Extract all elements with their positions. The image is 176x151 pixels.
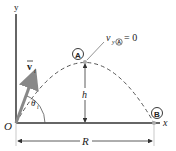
annotation-leader: [87, 42, 104, 60]
svg-text:i: i: [34, 68, 36, 74]
angle-label: θ i: [31, 98, 39, 110]
origin-label: O: [4, 120, 12, 132]
svg-text:B: B: [154, 110, 160, 119]
x-axis-label: x: [162, 117, 168, 128]
svg-text:= 0: = 0: [124, 32, 137, 43]
svg-text:y: y: [111, 39, 115, 45]
y-axis-label: y: [14, 2, 19, 12]
range-label: R: [81, 135, 89, 147]
projectile-diagram: y x O v i θ i A v y A = 0 h B: [0, 0, 176, 151]
svg-text:A: A: [75, 51, 81, 60]
svg-text:A: A: [117, 39, 121, 45]
svg-text:θ: θ: [31, 98, 36, 108]
point-a-marker: A: [73, 49, 84, 60]
point-b-marker: B: [152, 108, 163, 119]
angle-arc: [27, 96, 45, 123]
velocity-label: v i: [27, 61, 36, 74]
peak-point: [83, 60, 87, 64]
svg-text:v: v: [27, 61, 32, 72]
annotation-vy-zero: v y A = 0: [106, 32, 137, 45]
svg-text:v: v: [106, 32, 111, 43]
height-label: h: [82, 89, 87, 100]
